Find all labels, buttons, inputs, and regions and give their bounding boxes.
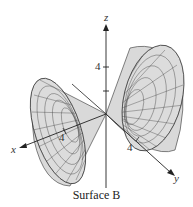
figure-caption: Surface B (0, 188, 193, 203)
z-axis-label: z (103, 11, 109, 23)
right-cone-nappe (106, 39, 193, 158)
z-arrow-icon (103, 24, 109, 31)
x-tick-4: 4 (59, 131, 65, 143)
x-arrow-icon (19, 143, 27, 148)
x-axis-label: x (10, 143, 16, 155)
surface-plot: z 4 x 4 y 4 (0, 0, 193, 207)
y-tick-4: 4 (127, 141, 133, 153)
figure: z 4 x 4 y 4 Surface B (0, 0, 193, 207)
z-axis: z 4 (95, 11, 109, 114)
z-tick-4: 4 (95, 60, 101, 72)
y-axis-label: y (173, 172, 179, 184)
